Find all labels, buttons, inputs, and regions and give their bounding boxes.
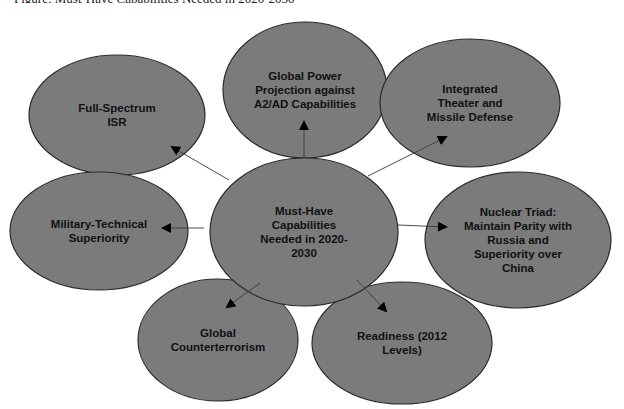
node-nuclear-triad: Nuclear Triad:Maintain Parity withRussia… xyxy=(425,172,611,308)
node-ellipse xyxy=(210,158,398,306)
arrow-to-full-spectrum-isr xyxy=(172,147,229,180)
node-label-line: Global Power xyxy=(268,70,342,82)
node-label-line: Theater and xyxy=(437,97,502,109)
center-node-group: Must-HaveCapabilitiesNeeded in 2020-2030 xyxy=(210,158,398,306)
center-node: Must-HaveCapabilitiesNeeded in 2020-2030 xyxy=(210,158,398,306)
node-label-line: Superiority over xyxy=(474,248,563,260)
node-label-line: Must-Have xyxy=(275,205,333,217)
node-global-power-projection: Global PowerProjection againstA2/AD Capa… xyxy=(223,22,387,158)
node-label-line: Nuclear Triad: xyxy=(480,206,557,218)
node-label-line: ISR xyxy=(107,116,127,128)
node-label-line: Integrated xyxy=(442,83,498,95)
node-label-line: Global xyxy=(200,327,236,339)
node-label-line: Needed in 2020- xyxy=(260,233,348,245)
node-label-line: Counterterrorism xyxy=(171,341,266,353)
node-integrated-theater-missile-defense: IntegratedTheater andMissile Defense xyxy=(380,39,560,167)
node-label-line: Levels) xyxy=(382,344,422,356)
node-label-line: Maintain Parity with xyxy=(464,220,572,232)
capabilities-diagram: Global PowerProjection againstA2/AD Capa… xyxy=(0,0,624,409)
node-label-line: A2/AD Capabilities xyxy=(254,98,356,110)
node-label-line: Missile Defense xyxy=(427,111,513,123)
node-label-line: Capabilities xyxy=(272,219,337,231)
node-ellipse xyxy=(10,172,188,290)
node-label-line: Military-Technical xyxy=(51,218,147,230)
node-label-line: Projection against xyxy=(255,84,355,96)
node-ellipse xyxy=(29,55,205,175)
node-label-line: Russia and xyxy=(487,234,548,246)
node-label-line: China xyxy=(502,262,535,274)
node-label-line: Readiness (2012 xyxy=(357,330,447,342)
node-label-line: Superiority xyxy=(69,232,130,244)
node-full-spectrum-isr: Full-SpectrumISR xyxy=(29,55,205,175)
node-label-line: Full-Spectrum xyxy=(78,102,155,114)
node-label-line: 2030 xyxy=(291,247,317,259)
node-military-technical-superiority: Military-TechnicalSuperiority xyxy=(10,172,188,290)
